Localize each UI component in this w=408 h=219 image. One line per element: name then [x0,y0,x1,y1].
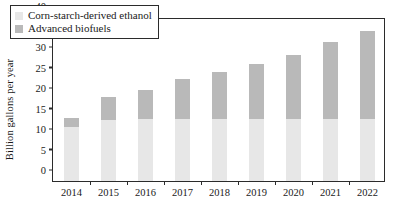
x-axis-tick-label: 2018 [209,187,230,198]
x-axis-tick-mark [90,181,91,185]
x-axis-tick-label: 2019 [246,187,267,198]
y-axis-tick-label: 25 [36,62,50,73]
bar-2014 [64,118,80,181]
x-axis-tick-mark [275,181,276,185]
y-axis-tick-mark [49,46,53,47]
y-axis-tick: 5 [41,144,53,155]
x-axis-tick-label: 2021 [320,187,341,198]
bar-2018 [212,72,228,181]
bar-2015 [101,97,117,181]
bar-segment-advanced-biofuels [360,31,376,118]
y-axis-tick: 10 [36,124,54,135]
legend-label-corn-starch-derived-ethanol: Corn-starch-derived ethanol [28,10,152,21]
y-axis-tick-label: 10 [36,124,50,135]
legend-item-corn-starch-derived-ethanol: Corn-starch-derived ethanol [15,9,152,22]
bar-segment-corn-starch-derived-ethanol [175,119,191,181]
legend-swatch-corn-starch-derived-ethanol [15,12,23,20]
bar-2022 [360,31,376,181]
y-axis-tick-label: 5 [41,144,49,155]
x-axis-tick-mark [164,181,165,185]
x-axis-tick-mark [201,181,202,185]
x-axis-tick-label: 2022 [357,187,378,198]
x-axis-tick-mark [127,181,128,185]
x-axis-tick-mark [349,181,350,185]
bar-2017 [175,79,191,181]
x-axis-tick-label: 2015 [98,187,119,198]
x-axis-tick-label: 2014 [61,187,82,198]
x-axis-tick-mark [238,181,239,185]
bar-2020 [286,55,302,181]
bar-segment-advanced-biofuels [286,55,302,119]
x-axis-tick-label: 2017 [172,187,193,198]
bar-segment-corn-starch-derived-ethanol [138,119,154,181]
y-axis-tick-label: 0 [41,165,49,176]
bar-segment-corn-starch-derived-ethanol [286,119,302,181]
y-axis-tick-mark [49,87,53,88]
y-axis-tick: 25 [36,62,54,73]
y-axis-tick-mark [49,128,53,129]
bar-segment-corn-starch-derived-ethanol [212,119,228,181]
bar-segment-corn-starch-derived-ethanol [101,120,117,182]
x-axis-tick-label: 2016 [135,187,156,198]
y-axis-tick-label: 30 [36,42,50,53]
y-axis-tick: 30 [36,42,54,53]
bar-segment-corn-starch-derived-ethanol [323,119,339,181]
y-axis-tick-mark [49,169,53,170]
bar-segment-corn-starch-derived-ethanol [249,119,265,181]
legend-swatch-advanced-biofuels [15,25,23,33]
bar-segment-corn-starch-derived-ethanol [64,127,80,181]
y-axis-tick-mark [49,67,53,68]
y-axis-tick: 15 [36,103,54,114]
bar-segment-advanced-biofuels [138,90,154,119]
bar-chart-figure: Billion gallons per year 051015202530354… [0,0,408,219]
bar-segment-advanced-biofuels [249,64,265,119]
y-axis-tick: 0 [41,165,53,176]
bar-segment-advanced-biofuels [212,72,228,118]
y-axis-tick-label: 15 [36,103,50,114]
bar-segment-advanced-biofuels [64,118,80,127]
x-axis-tick-label: 2020 [283,187,304,198]
bar-segment-advanced-biofuels [101,97,117,120]
bar-segment-advanced-biofuels [323,42,339,118]
legend-label-advanced-biofuels: Advanced biofuels [28,23,111,34]
y-axis-tick-label: 20 [36,83,50,94]
legend-item-advanced-biofuels: Advanced biofuels [15,22,152,35]
bar-2021 [323,42,339,181]
bar-segment-advanced-biofuels [175,79,191,118]
y-axis-tick: 20 [36,83,54,94]
bar-2016 [138,90,154,181]
plot-area: 0510152025303540 20142015201620172018201… [52,18,385,182]
chart-legend: Corn-starch-derived ethanol Advanced bio… [10,5,159,39]
y-axis-tick-mark [49,108,53,109]
x-axis-tick-mark [312,181,313,185]
bar-segment-corn-starch-derived-ethanol [360,119,376,181]
bar-2019 [249,64,265,181]
y-axis-tick-mark [49,149,53,150]
